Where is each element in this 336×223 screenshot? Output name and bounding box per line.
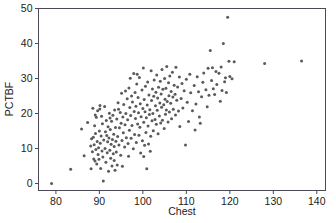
data-point bbox=[150, 99, 153, 102]
data-point bbox=[156, 109, 159, 112]
data-point bbox=[221, 89, 224, 92]
data-point bbox=[99, 142, 102, 145]
data-point bbox=[174, 113, 177, 116]
data-point bbox=[140, 115, 143, 118]
data-point bbox=[162, 103, 165, 106]
data-point bbox=[99, 104, 102, 107]
data-point bbox=[110, 120, 113, 123]
y-tick-label: 30 bbox=[21, 72, 33, 84]
data-point bbox=[107, 125, 110, 128]
data-point bbox=[117, 108, 120, 111]
data-point bbox=[151, 112, 154, 115]
data-point bbox=[122, 103, 125, 106]
data-point bbox=[139, 152, 142, 155]
data-point bbox=[104, 161, 107, 164]
data-point bbox=[161, 68, 164, 71]
data-point bbox=[224, 76, 227, 79]
data-point bbox=[124, 123, 127, 126]
data-point bbox=[104, 147, 107, 150]
data-point bbox=[97, 158, 100, 161]
data-point bbox=[86, 121, 89, 124]
data-point bbox=[119, 154, 122, 157]
data-point bbox=[228, 75, 231, 78]
data-point bbox=[175, 99, 178, 102]
data-point bbox=[143, 144, 146, 147]
data-point bbox=[120, 122, 123, 125]
data-point bbox=[233, 60, 236, 63]
data-point bbox=[155, 123, 158, 126]
data-point bbox=[127, 86, 130, 89]
data-point bbox=[167, 120, 170, 123]
data-point bbox=[142, 121, 145, 124]
data-point bbox=[114, 126, 117, 129]
data-point bbox=[50, 182, 53, 185]
data-point bbox=[200, 95, 203, 98]
data-point bbox=[135, 141, 138, 144]
y-tick-label: 40 bbox=[21, 37, 33, 49]
data-point bbox=[180, 97, 183, 100]
y-tick-label: 10 bbox=[21, 142, 33, 154]
data-point bbox=[174, 66, 177, 69]
data-point bbox=[134, 117, 137, 120]
data-point bbox=[204, 88, 207, 91]
data-point bbox=[127, 155, 130, 158]
data-point bbox=[114, 140, 117, 143]
data-point bbox=[138, 76, 141, 79]
data-point bbox=[144, 85, 147, 88]
data-point bbox=[132, 72, 135, 75]
data-point bbox=[137, 111, 140, 114]
data-point bbox=[207, 67, 210, 70]
data-point bbox=[93, 143, 96, 146]
data-point bbox=[100, 115, 103, 118]
data-point bbox=[106, 151, 109, 154]
x-tick-label: 120 bbox=[221, 195, 239, 207]
data-point bbox=[90, 167, 93, 170]
data-point bbox=[187, 120, 190, 123]
data-point bbox=[160, 92, 163, 95]
data-point bbox=[133, 110, 136, 113]
data-point bbox=[214, 70, 217, 73]
y-axis-title: PCTBF bbox=[3, 82, 15, 116]
data-point bbox=[107, 137, 110, 140]
data-point bbox=[128, 106, 131, 109]
data-point bbox=[213, 93, 216, 96]
x-tick-label: 80 bbox=[50, 195, 62, 207]
data-point bbox=[227, 60, 230, 63]
data-point bbox=[126, 118, 129, 121]
data-point bbox=[184, 144, 187, 147]
data-point bbox=[113, 109, 116, 112]
data-point bbox=[160, 106, 163, 109]
data-point bbox=[83, 154, 86, 157]
data-point bbox=[173, 84, 176, 87]
data-point bbox=[206, 105, 209, 108]
data-point bbox=[137, 96, 140, 99]
data-point bbox=[168, 75, 171, 78]
data-point bbox=[105, 119, 108, 122]
data-point bbox=[191, 109, 194, 112]
x-tick-label: 130 bbox=[265, 195, 283, 207]
data-point bbox=[163, 77, 166, 80]
data-point bbox=[150, 69, 153, 72]
data-point bbox=[94, 132, 97, 135]
data-point bbox=[158, 114, 161, 117]
data-point bbox=[201, 81, 204, 84]
y-tick-label: 0 bbox=[27, 177, 33, 189]
data-point bbox=[163, 127, 166, 130]
data-point bbox=[135, 83, 138, 86]
data-point bbox=[103, 105, 106, 108]
data-point bbox=[93, 124, 96, 127]
data-point bbox=[129, 77, 132, 80]
data-point bbox=[226, 16, 229, 19]
data-point bbox=[153, 78, 156, 81]
data-point bbox=[108, 149, 111, 152]
data-point bbox=[139, 102, 142, 105]
data-point bbox=[108, 112, 111, 115]
data-point bbox=[183, 89, 186, 92]
data-point bbox=[138, 126, 141, 129]
data-point bbox=[151, 88, 154, 91]
data-point bbox=[96, 140, 99, 143]
data-point bbox=[113, 145, 116, 148]
data-point bbox=[220, 65, 223, 68]
data-point bbox=[130, 95, 133, 98]
data-point bbox=[136, 73, 139, 76]
